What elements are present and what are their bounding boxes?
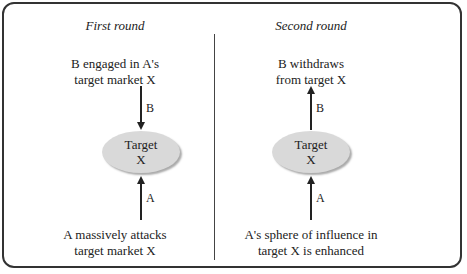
arrow-b-up-icon: [306, 86, 316, 130]
arrow-a-label: A: [146, 191, 155, 206]
arrow-b-label: B: [146, 101, 154, 116]
panel-title: Second round: [196, 18, 426, 34]
arrow-a-up-icon: [136, 176, 146, 220]
panel-second-round: Second round B withdraws from target X B…: [196, 0, 426, 274]
arrow-a-label: A: [316, 191, 325, 206]
arrow-b-label: B: [316, 101, 324, 116]
top-description: B withdraws from target X: [196, 56, 426, 88]
target-node: Target X: [102, 131, 180, 173]
arrow-b-down-icon: [136, 86, 146, 130]
target-node: Target X: [272, 131, 350, 173]
bottom-description: A's sphere of influence in target X is e…: [196, 227, 426, 259]
arrow-a-up-icon: [306, 176, 316, 220]
